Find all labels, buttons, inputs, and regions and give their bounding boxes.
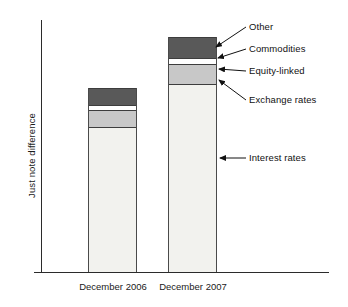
callout-label-other: Other <box>249 21 273 32</box>
leader-equity-linked <box>219 69 246 71</box>
leader-commodities <box>218 49 246 58</box>
callout-label-commodities: Commodities <box>249 43 306 54</box>
callout-label-exchange-rates: Exchange rates <box>249 94 316 105</box>
leader-other <box>216 27 246 47</box>
stacked-bar-chart: Just note difference <box>0 0 348 307</box>
x-axis-category-december-2007: December 2007 <box>143 281 243 292</box>
callout-label-equity-linked: Equity-linked <box>249 65 305 76</box>
callout-label-interest-rates: Interest rates <box>249 152 306 163</box>
leader-exchange-rates <box>219 80 246 100</box>
